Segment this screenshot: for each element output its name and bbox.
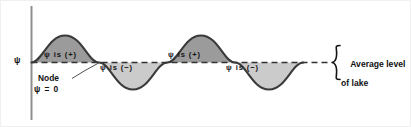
wave-label-negative-1: ψ is (−) — [100, 64, 133, 73]
wave-diagram-figure: ψ ψ is (+) ψ is (−) ψ is (+) ψ is (−) No… — [0, 0, 411, 127]
average-level-caption-line1: Average level — [350, 59, 405, 69]
wave-label-positive-2: ψ is (+) — [168, 51, 201, 60]
average-level-caption-line2: of lake — [341, 79, 405, 89]
psi-axis-label: ψ — [14, 56, 20, 66]
wave-label-negative-2: ψ is (−) — [226, 64, 259, 73]
node-annotation-equation: ψ = 0 — [34, 85, 59, 94]
node-annotation-label: Node — [38, 74, 59, 83]
average-level-caption: Average level of lake — [341, 50, 405, 108]
wave-label-positive-1: ψ is (+) — [44, 51, 77, 60]
